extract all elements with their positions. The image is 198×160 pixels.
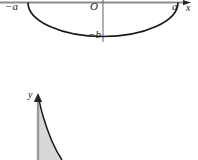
bottom-panel-group bbox=[34, 93, 62, 160]
figure-canvas bbox=[0, 0, 198, 160]
y-axis-arrow-icon bbox=[34, 93, 42, 102]
label-negative-b: −b bbox=[88, 29, 101, 40]
label-origin: O bbox=[90, 1, 98, 12]
label-a: a bbox=[172, 1, 178, 12]
math-figure-panel: −a O a x −b y bbox=[0, 0, 198, 160]
label-negative-a: −a bbox=[5, 1, 18, 12]
label-x-axis: x bbox=[186, 3, 190, 13]
label-y-axis: y bbox=[28, 90, 32, 100]
